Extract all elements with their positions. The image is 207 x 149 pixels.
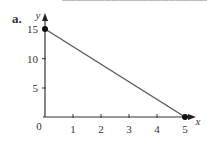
point-0-15 <box>42 26 48 32</box>
x-tick-3: 3 <box>126 123 132 135</box>
y-axis-arrow-icon <box>42 13 48 21</box>
origin-label: 0 <box>36 120 42 132</box>
y-axis-label: y <box>35 9 41 21</box>
x-tick-1: 1 <box>70 123 76 135</box>
data-line <box>45 29 185 117</box>
y-tick-5: 5 <box>33 82 39 94</box>
x-axis-label: x <box>195 115 201 127</box>
y-tick-10: 10 <box>27 53 39 65</box>
x-tick-4: 4 <box>154 123 160 135</box>
line-chart: 5 10 15 0 1 2 3 4 5 y x <box>0 0 207 149</box>
x-tick-5: 5 <box>182 123 188 135</box>
y-tick-15: 15 <box>27 23 39 35</box>
x-tick-2: 2 <box>98 123 104 135</box>
point-5-0 <box>182 114 188 120</box>
